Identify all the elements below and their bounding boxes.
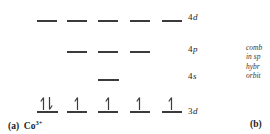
panel-a-letter: (a) xyxy=(8,121,19,131)
orbital-line xyxy=(162,111,182,113)
orbital-line xyxy=(98,51,118,53)
orbital-energy-diagram: 4d 4p 4s xyxy=(0,0,270,134)
side-annotation-line: comb xyxy=(246,43,262,52)
electron-spin-down-arrow-icon xyxy=(46,96,54,111)
orbital-line xyxy=(67,20,87,22)
ion-charge: 3+ xyxy=(35,119,42,126)
level-label-4s: 4s xyxy=(188,71,197,81)
side-annotation-text: comb in sp hybr orbit xyxy=(246,43,262,81)
orbital-line xyxy=(130,111,150,113)
electron-spin-up-arrow-icon xyxy=(135,96,143,111)
orbital-line xyxy=(98,20,118,22)
orbital-line xyxy=(130,20,150,22)
electron-spin-up-arrow-icon xyxy=(73,96,81,111)
side-annotation-line: orbit xyxy=(246,71,262,80)
orbital-line xyxy=(37,20,57,22)
electron-spin-up-arrow-icon xyxy=(104,96,112,111)
orbital-line xyxy=(162,20,182,22)
orbital-line xyxy=(67,111,87,113)
side-annotation-line: hybr xyxy=(246,62,262,71)
level-letter: d xyxy=(193,12,198,22)
level-label-4d: 4d xyxy=(188,12,198,22)
level-letter: p xyxy=(193,44,198,54)
orbital-line xyxy=(37,111,58,113)
electron-spin-up-arrow-icon xyxy=(167,96,175,111)
ion-symbol: Co3+ xyxy=(24,121,43,131)
panel-a-caption: (a) Co3+ xyxy=(8,119,42,131)
level-letter: d xyxy=(193,106,198,116)
level-label-3d: 3d xyxy=(188,106,198,116)
level-letter: s xyxy=(193,71,197,81)
orbital-line xyxy=(130,51,150,53)
panel-b-caption: (b) xyxy=(250,119,262,129)
orbital-line xyxy=(67,51,87,53)
orbital-line xyxy=(98,111,118,113)
orbital-line xyxy=(98,79,119,81)
level-label-4p: 4p xyxy=(188,44,198,54)
side-annotation-line: in sp xyxy=(246,52,262,61)
